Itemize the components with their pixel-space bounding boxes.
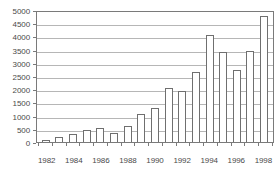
bar-slot: [175, 12, 189, 142]
bar: [246, 51, 254, 142]
x-axis-tick: [107, 143, 108, 146]
y-axis-tick-label: 1000: [13, 112, 30, 121]
bar: [96, 128, 104, 142]
x-axis-tick-label: 1990: [146, 156, 163, 165]
x-axis-slot: [218, 149, 228, 163]
x-axis-slot: 1982: [38, 149, 55, 163]
x-axis-tick-label: 1996: [228, 156, 245, 165]
x-axis-slot: [55, 149, 65, 163]
bar: [233, 70, 241, 142]
x-axis-slot: [110, 149, 120, 163]
bar-slot: [189, 12, 203, 142]
x-axis-slot: 1994: [200, 149, 217, 163]
x-axis-tick: [162, 143, 163, 146]
x-axis-slot: 1992: [173, 149, 190, 163]
bar-slot: [107, 12, 121, 142]
bar-slot: [66, 12, 80, 142]
y-axis-tick-label: 3000: [13, 59, 30, 68]
x-axis-tick: [38, 143, 39, 146]
x-axis: 198219841986198819901992199419961998: [36, 149, 274, 163]
bars-layer: [37, 12, 273, 142]
x-axis-tick: [258, 143, 259, 146]
bar: [165, 88, 173, 142]
x-axis-slot: 1990: [146, 149, 163, 163]
bar-slot: [121, 12, 135, 142]
y-axis-tick-label: 1500: [13, 99, 30, 108]
x-axis-tick: [189, 143, 190, 146]
bar: [55, 137, 63, 142]
bar: [206, 35, 214, 142]
bar: [69, 134, 77, 142]
y-axis-tick-label: 5000: [13, 7, 30, 16]
bar-chart: 0500100015002000250030003500400045005000…: [0, 0, 278, 173]
x-axis-slot: 1984: [65, 149, 82, 163]
bar: [178, 91, 186, 142]
bar-slot: [203, 12, 217, 142]
bar-slot: [257, 12, 271, 142]
bar-slot: [80, 12, 94, 142]
bar-slot: [134, 12, 148, 142]
x-axis-slot: 1998: [255, 149, 272, 163]
x-axis-tick: [52, 143, 53, 146]
x-axis-tick: [231, 143, 232, 146]
bar-slot: [216, 12, 230, 142]
bar-slot: [230, 12, 244, 142]
x-axis-tick: [79, 143, 80, 146]
y-axis-tick-label: 500: [17, 125, 30, 134]
bar: [151, 108, 159, 142]
bar-slot: [162, 12, 176, 142]
x-axis-slot: [137, 149, 147, 163]
x-axis-tick-label: 1994: [200, 156, 217, 165]
x-axis-tick: [93, 143, 94, 146]
bar-slot: [244, 12, 258, 142]
bar: [192, 72, 200, 142]
x-axis-slot: [82, 149, 92, 163]
x-axis-slot: [164, 149, 174, 163]
x-axis-slot: [191, 149, 201, 163]
bar: [83, 130, 91, 142]
x-axis-tick-label: 1986: [92, 156, 109, 165]
bar: [137, 114, 145, 142]
y-axis: 0500100015002000250030003500400045005000: [0, 0, 34, 154]
bar-slot: [94, 12, 108, 142]
x-axis-slot: 1996: [228, 149, 245, 163]
x-axis-slot: 1988: [119, 149, 136, 163]
x-axis-tick: [217, 143, 218, 146]
x-axis-tick: [244, 143, 245, 146]
x-axis-tick: [176, 143, 177, 146]
y-axis-tick-label: 0: [26, 139, 30, 148]
bar-slot: [148, 12, 162, 142]
bar-slot: [39, 12, 53, 142]
x-axis-tick: [148, 143, 149, 146]
y-axis-tick-label: 3500: [13, 46, 30, 55]
y-axis-tick-label: 2000: [13, 86, 30, 95]
x-axis-slot: 1986: [92, 149, 109, 163]
bar-slot: [53, 12, 67, 142]
x-axis-tick-label: 1992: [173, 156, 190, 165]
x-axis-slot: [245, 149, 255, 163]
x-axis-tick-label: 1988: [119, 156, 136, 165]
x-axis-ticks: [36, 143, 274, 147]
x-axis-tick: [272, 143, 273, 146]
bar: [110, 133, 118, 142]
x-axis-tick-label: 1998: [255, 156, 272, 165]
x-axis-tick: [134, 143, 135, 146]
bar: [260, 16, 268, 142]
x-axis-tick: [66, 143, 67, 146]
plot-area: [36, 11, 274, 143]
bar: [42, 140, 50, 142]
x-axis-tick: [203, 143, 204, 146]
x-axis-tick-label: 1984: [65, 156, 82, 165]
y-axis-tick-label: 4500: [13, 20, 30, 29]
x-axis-tick-label: 1982: [38, 156, 55, 165]
y-axis-tick-label: 2500: [13, 73, 30, 82]
x-axis-tick: [121, 143, 122, 146]
bar: [219, 52, 227, 142]
y-axis-tick-label: 4000: [13, 33, 30, 42]
bar: [124, 126, 132, 142]
